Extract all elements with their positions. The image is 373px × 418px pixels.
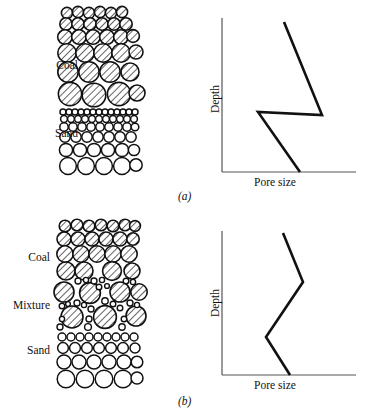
bed-label-coal-b: Coal: [0, 252, 50, 264]
bed-diagram-a: Coal Sand: [0, 0, 190, 209]
sand-layer-grains-b: [57, 333, 143, 388]
bed-diagram-a-svg: [0, 0, 190, 209]
x-axis-label-b: Pore size: [254, 379, 296, 391]
coal-layer-grains-a: [58, 6, 145, 106]
pore-size-chart-b: Depth Pore size: [190, 209, 373, 418]
figure-panel-a: Coal Sand Depth Pore size (a): [0, 0, 373, 209]
bed-label-sand-a: Sand: [4, 128, 78, 140]
bed-label-sand-b: Sand: [0, 345, 50, 357]
chart-axes-a: [222, 18, 356, 172]
y-axis-label-b: Depth: [209, 273, 221, 333]
x-axis-label-a: Pore size: [254, 176, 296, 188]
pore-size-profile-line-a: [258, 22, 322, 172]
bed-diagram-b-svg: [0, 209, 190, 418]
sand-layer-grains-a: [59, 109, 142, 174]
figure-panel-b: Coal Mixture Sand Depth Pore size (b): [0, 209, 373, 418]
bed-diagram-b: Coal Mixture Sand: [0, 209, 190, 418]
bed-label-coal-a: Coal: [4, 60, 78, 72]
coal-layer-grains-b: [57, 219, 141, 280]
pore-size-chart-a: Depth Pore size: [190, 0, 373, 209]
pore-size-profile-line-b: [266, 233, 303, 375]
panel-caption-a: (a): [178, 190, 191, 202]
bed-label-mixture-b: Mixture: [0, 300, 50, 312]
panel-caption-b: (b): [178, 395, 191, 407]
y-axis-label-a: Depth: [209, 69, 221, 129]
